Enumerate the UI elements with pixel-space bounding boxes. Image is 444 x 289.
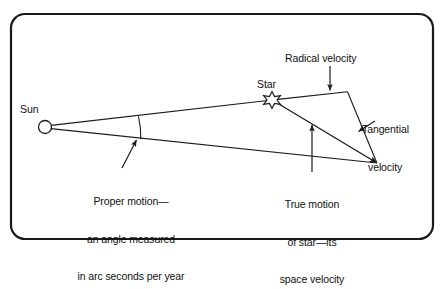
radial-velocity-vector xyxy=(278,92,348,100)
sun-label: Sun xyxy=(20,103,38,116)
proper-motion-leader-arrow xyxy=(122,140,137,168)
tangential-velocity-label-line1: Tangential xyxy=(362,123,409,136)
proper-motion-label-line3: in arc seconds per year xyxy=(57,270,205,283)
star-marker-icon xyxy=(264,92,281,109)
radial-velocity-label: Radical velocity xyxy=(285,52,356,65)
true-motion-label: True motion of star—its space velocity xyxy=(262,173,362,289)
sight-line-upper xyxy=(51,100,272,125)
true-motion-label-line3: space velocity xyxy=(262,273,362,286)
proper-motion-arc xyxy=(139,116,141,139)
proper-motion-label: Proper motion— an angle measured in arc … xyxy=(57,170,205,289)
true-motion-label-line1: True motion xyxy=(262,198,362,211)
true-motion-label-line2: of star—its xyxy=(262,236,362,249)
sun-marker-icon xyxy=(39,121,52,134)
star-label: Star xyxy=(257,78,276,91)
proper-motion-label-line1: Proper motion— xyxy=(57,195,205,208)
tangential-velocity-label: Tangential velocity xyxy=(362,98,409,198)
tangential-velocity-label-line2: velocity xyxy=(362,161,409,174)
proper-motion-label-line2: an angle measured xyxy=(57,233,205,246)
